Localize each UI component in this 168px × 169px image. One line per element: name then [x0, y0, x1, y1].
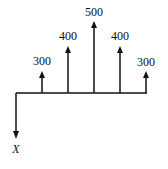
outflow-label: X — [12, 143, 19, 155]
outflow-arrowhead-icon — [13, 131, 19, 139]
inflow-label-1: 300 — [33, 55, 51, 67]
inflow-label-5: 300 — [137, 56, 155, 68]
inflow-arrowhead-icon — [117, 46, 123, 53]
inflow-arrowhead-icon — [39, 71, 45, 78]
inflow-arrowhead-icon — [143, 71, 149, 78]
inflow-arrowhead-icon — [91, 21, 97, 28]
cash-flow-diagram: 300 400 500 400 300 X — [0, 0, 168, 169]
inflow-label-4: 400 — [111, 30, 129, 42]
inflow-label-2: 400 — [59, 30, 77, 42]
inflow-arrowhead-icon — [65, 46, 71, 53]
cash-flow-svg — [0, 0, 168, 169]
inflow-label-3: 500 — [85, 6, 103, 18]
inflow-arrows — [39, 21, 149, 93]
